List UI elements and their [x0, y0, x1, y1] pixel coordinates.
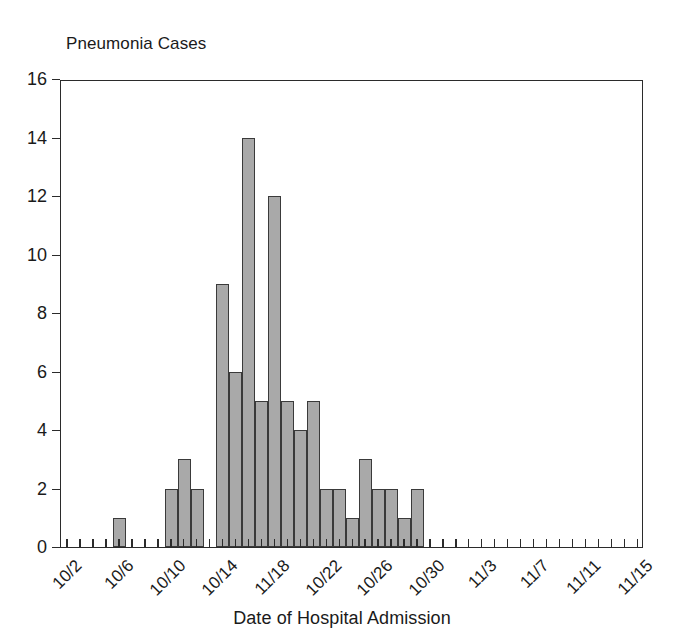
x-tick-mark — [92, 539, 93, 548]
bars-layer — [61, 81, 642, 547]
x-tick-mark — [144, 539, 145, 548]
x-tick-label: 10/6 — [101, 556, 139, 594]
x-tick-label: 11/15 — [613, 556, 656, 599]
chart-title: Pneumonia Cases — [66, 34, 206, 54]
x-tick-mark — [520, 539, 521, 548]
x-tick-label: 10/22 — [301, 556, 345, 600]
y-tick-mark — [52, 313, 60, 314]
y-tick-label: 4 — [37, 420, 47, 440]
x-tick-mark — [637, 539, 638, 548]
x-tick-mark — [507, 539, 508, 548]
bar — [359, 459, 372, 547]
bar — [307, 401, 320, 547]
x-tick-mark — [533, 539, 534, 548]
x-tick-mark — [572, 539, 573, 548]
x-tick-mark — [559, 539, 560, 548]
y-tick-mark — [52, 489, 60, 490]
x-tick-label: 10/26 — [353, 556, 397, 600]
x-tick-mark — [455, 539, 456, 548]
y-tick-label: 2 — [37, 479, 47, 499]
x-tick-label: 11/18 — [251, 556, 294, 599]
y-tick-mark — [52, 372, 60, 373]
plot-area — [60, 80, 643, 548]
x-tick-label: 11/11 — [562, 556, 604, 598]
bar — [178, 459, 191, 547]
y-tick-mark — [52, 138, 60, 139]
x-tick-mark — [222, 539, 223, 548]
x-tick-label: 10/2 — [49, 556, 87, 594]
x-tick-label: 10/14 — [198, 556, 242, 600]
x-tick-mark — [624, 539, 625, 548]
x-tick-mark — [313, 539, 314, 548]
x-tick-mark — [183, 539, 184, 548]
x-tick-mark — [352, 539, 353, 548]
x-tick-mark — [66, 539, 67, 548]
x-tick-mark — [118, 539, 119, 548]
chart-figure: Pneumonia Cases 0246810121416 10/210/610… — [0, 0, 684, 637]
x-tick-label: 10/10 — [146, 556, 190, 600]
x-axis-title: Date of Hospital Admission — [0, 608, 684, 629]
y-tick-mark — [52, 79, 60, 80]
x-tick-mark — [364, 539, 365, 548]
x-tick-mark — [390, 539, 391, 548]
x-tick-mark — [339, 539, 340, 548]
x-tick-mark — [546, 539, 547, 548]
x-tick-mark — [300, 539, 301, 548]
x-tick-mark — [131, 539, 132, 548]
y-tick-label: 16 — [27, 69, 47, 89]
x-tick-mark — [248, 539, 249, 548]
bar — [242, 138, 255, 548]
y-tick-mark — [52, 255, 60, 256]
x-tick-mark — [274, 539, 275, 548]
x-tick-mark — [494, 539, 495, 548]
x-tick-label: 11/3 — [465, 556, 502, 593]
x-tick-mark — [261, 539, 262, 548]
y-tick-label: 6 — [37, 362, 47, 382]
y-tick-label: 8 — [37, 303, 47, 323]
y-tick-mark — [52, 547, 60, 548]
bar — [294, 430, 307, 547]
bar — [268, 196, 281, 547]
y-tick-label: 12 — [27, 186, 47, 206]
x-tick-mark — [416, 539, 417, 548]
x-tick-mark — [481, 539, 482, 548]
x-tick-mark — [105, 539, 106, 548]
x-tick-label: 11/7 — [516, 556, 553, 593]
x-tick-mark — [157, 539, 158, 548]
y-tick-label: 10 — [27, 245, 47, 265]
x-tick-mark — [79, 539, 80, 548]
x-tick-mark — [209, 539, 210, 548]
y-axis: 0246810121416 — [0, 80, 60, 548]
x-tick-label: 10/30 — [405, 556, 449, 600]
y-tick-mark — [52, 196, 60, 197]
x-tick-mark — [170, 539, 171, 548]
bar — [216, 284, 229, 547]
x-tick-mark — [403, 539, 404, 548]
y-tick-label: 14 — [27, 128, 47, 148]
x-tick-mark — [235, 539, 236, 548]
bar — [255, 401, 268, 547]
bar — [281, 401, 294, 547]
x-tick-mark — [287, 539, 288, 548]
x-tick-mark — [429, 539, 430, 548]
x-tick-mark — [326, 539, 327, 548]
x-tick-mark — [377, 539, 378, 548]
x-tick-mark — [585, 539, 586, 548]
x-tick-mark — [442, 539, 443, 548]
x-tick-mark — [468, 539, 469, 548]
x-tick-mark — [611, 539, 612, 548]
x-tick-mark — [598, 539, 599, 548]
y-tick-label: 0 — [37, 537, 47, 557]
y-tick-mark — [52, 430, 60, 431]
x-tick-mark — [196, 539, 197, 548]
bar — [229, 372, 242, 548]
